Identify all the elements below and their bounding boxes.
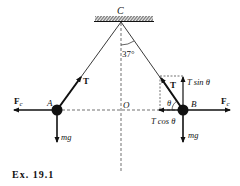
tension-arrow-a bbox=[57, 77, 81, 110]
tension-label-a: T bbox=[83, 76, 89, 86]
figure-caption: Ex. 19.1 bbox=[12, 169, 54, 180]
point-a-label: A bbox=[46, 98, 53, 108]
t-sin-label: T sin θ bbox=[187, 77, 210, 87]
conical-pendulum-diagram: C 37° O A T Fc mg B T T sin θ T cos θ θ … bbox=[0, 0, 240, 186]
t-cos-label: T cos θ bbox=[151, 116, 175, 126]
angle-label: 37° bbox=[122, 49, 135, 59]
theta-arc bbox=[172, 101, 177, 110]
centrifugal-label-b: Fc bbox=[221, 96, 231, 108]
weight-label-b: mg bbox=[188, 130, 198, 140]
point-b-label: B bbox=[191, 99, 197, 109]
theta-label: θ bbox=[167, 98, 171, 108]
point-o-label: O bbox=[123, 100, 130, 110]
ceiling-support bbox=[94, 16, 154, 22]
tension-label-b: T bbox=[170, 80, 176, 90]
point-c-label: C bbox=[117, 5, 124, 16]
centrifugal-label-a: Fc bbox=[14, 96, 24, 108]
weight-label-a: mg bbox=[61, 132, 71, 142]
angle-arc-37 bbox=[121, 41, 134, 45]
